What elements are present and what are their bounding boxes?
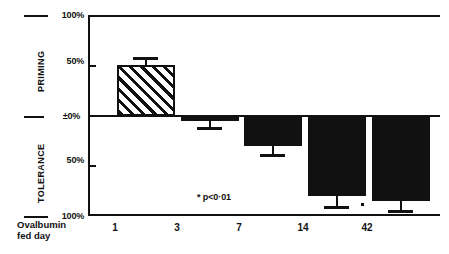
region-label-tolerance: TOLERANCE: [36, 144, 46, 203]
y-tick-dash-zero: [24, 116, 44, 118]
y-tick-label-plus-50: 50%: [50, 56, 84, 66]
axis-line-bottom: [88, 214, 440, 216]
x-tick-label-day-3: 3: [162, 222, 192, 233]
significance-marker-day-42: [361, 203, 364, 206]
error-bar-cap-day-1: [133, 57, 158, 60]
x-tick-label-day-42: 42: [352, 222, 382, 233]
region-label-priming: PRIMING: [36, 51, 46, 92]
x-tick-label-day-14: 14: [288, 222, 318, 233]
error-bar-cap-day-42: [388, 210, 413, 213]
y-tick-label-minus-50: 50%: [50, 155, 84, 165]
y-tick-label-plus-100: 100%: [50, 10, 84, 20]
axis-tick-inner-plus-50: [90, 65, 96, 67]
bar-day-14: [308, 116, 366, 196]
x-tick-label-day-1: 1: [100, 222, 130, 233]
axis-tick-inner-minus-50: [90, 165, 96, 167]
x-tick-label-day-7: 7: [224, 222, 254, 233]
x-axis-caption-line2: fed day: [17, 231, 50, 242]
bar-day-42: [372, 116, 430, 201]
bar-day-1: [117, 65, 175, 116]
error-bar-cap-day-3: [197, 127, 222, 130]
error-bar-cap-day-7: [260, 154, 285, 157]
y-tick-dash-minus-100: [24, 216, 48, 218]
x-axis-caption-line1: Ovalbumin: [17, 220, 66, 231]
bar-day-7: [244, 116, 302, 146]
error-bar-cap-day-14: [324, 206, 349, 209]
plot-area: [88, 15, 440, 216]
y-tick-label-zero: ±0%: [46, 111, 80, 121]
axis-line-top: [88, 15, 440, 17]
y-tick-dash-plus-100: [24, 15, 48, 17]
figure-container: 100% 50% ±0% 50% 100% PRIMING TOLERANCE …: [0, 0, 449, 254]
